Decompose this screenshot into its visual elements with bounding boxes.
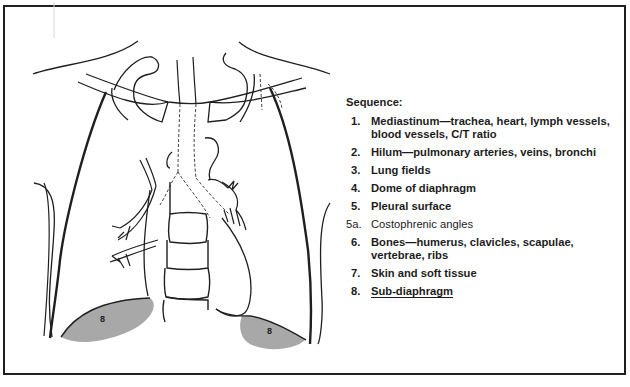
trachea-dashed — [160, 74, 282, 218]
legend-text: Lung fields — [371, 164, 626, 177]
sub-diaphragm-right-label: 8 — [100, 314, 105, 324]
sub-diaphragm-left-region — [240, 316, 305, 349]
sequence-legend: Sequence: 1. Mediastinum—trachea, heart,… — [346, 96, 626, 303]
legend-item-3: 3. Lung fields — [346, 164, 626, 177]
legend-text: Bones—humerus, clavicles, scapulae, vert… — [371, 236, 626, 262]
trachea — [177, 57, 196, 104]
legend-number: 6. — [346, 236, 371, 262]
legend-item-2: 2. Hilum—pulmonary arteries, veins, bron… — [346, 146, 626, 159]
legend-item-1: 1. Mediastinum—trachea, heart, lymph ves… — [346, 115, 626, 141]
legend-text: Skin and soft tissue — [371, 267, 626, 280]
legend-number: 5a. — [346, 218, 371, 231]
legend-title: Sequence: — [346, 96, 626, 109]
legend-text: Sub-diaphragm — [371, 285, 626, 298]
legend-number: 2. — [346, 146, 371, 159]
legend-text: Costophrenic angles — [371, 218, 626, 231]
legend-number: 5. — [346, 200, 371, 213]
legend-text: Dome of diaphragm — [371, 182, 626, 195]
legend-number: 4. — [346, 182, 371, 195]
sub-diaphragm-left-label: 8 — [267, 326, 272, 336]
legend-text: Mediastinum—trachea, heart, lymph vessel… — [371, 115, 626, 141]
legend-number: 7. — [346, 267, 371, 280]
legend-item-4: 4. Dome of diaphragm — [346, 182, 626, 195]
legend-list: 1. Mediastinum—trachea, heart, lymph ves… — [346, 115, 626, 298]
mediastinum — [144, 138, 251, 316]
legend-item-5: 5. Pleural surface — [346, 200, 626, 213]
legend-item-7: 7. Skin and soft tissue — [346, 267, 626, 280]
legend-number: 1. — [346, 115, 371, 141]
legend-item-5a: 5a. Costophrenic angles — [346, 218, 626, 231]
scapulae — [112, 53, 255, 122]
rib-cage-outline — [44, 88, 311, 344]
legend-number: 3. — [346, 164, 371, 177]
vertebrae — [163, 182, 210, 322]
legend-number: 8. — [346, 285, 371, 298]
legend-item-8: 8. Sub-diaphragm — [346, 285, 626, 298]
sub-diaphragm-regions — [61, 298, 306, 349]
legend-text: Pleural surface — [371, 200, 626, 213]
legend-item-6: 6. Bones—humerus, clavicles, scapulae, v… — [346, 236, 626, 262]
legend-text: Hilum—pulmonary arteries, veins, bronchi — [371, 146, 626, 159]
